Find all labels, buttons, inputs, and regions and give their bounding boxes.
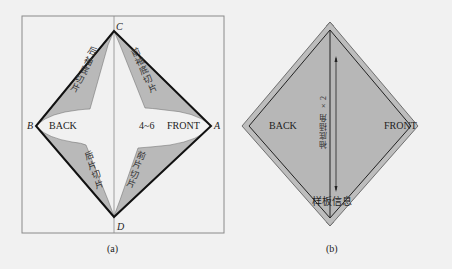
diagram-canvas	[0, 0, 452, 269]
range-label: 4~6	[139, 120, 154, 131]
front-label-b: FRONT	[384, 120, 417, 131]
point-d-label: D	[117, 221, 124, 232]
point-b-label: B	[27, 120, 33, 131]
point-a-label: A	[214, 120, 220, 131]
front-label-a: FRONT	[167, 120, 200, 131]
caption-b: (b)	[326, 243, 338, 254]
caption-a: (a)	[107, 243, 118, 254]
pattern-info-label: 样板信息	[312, 193, 352, 208]
point-c-label: C	[116, 21, 123, 32]
back-label-b: BACK	[269, 120, 297, 131]
back-label-a: BACK	[49, 120, 77, 131]
grain-label: 袖底插角 ×2	[318, 95, 329, 149]
